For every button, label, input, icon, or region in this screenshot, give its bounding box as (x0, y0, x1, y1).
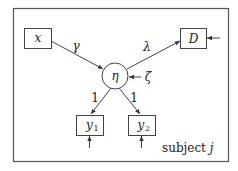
node-x-label: x (35, 31, 42, 45)
node-y2-label: y (137, 118, 145, 132)
node-y1-subscript: 1 (94, 124, 99, 133)
edge-label-gamma: γ (72, 39, 80, 53)
node-y1-label: y (85, 118, 93, 132)
frame-label: subject j (162, 141, 214, 155)
node-d-label: D (188, 32, 199, 46)
node-d: D (181, 29, 207, 49)
frame-label-text: subject (162, 141, 210, 155)
node-y2: y 2 (129, 116, 156, 136)
node-y2-subscript: 2 (145, 124, 150, 133)
edge-label-eta-y1: 1 (91, 91, 99, 105)
node-x: x (25, 29, 52, 49)
edge-label-eta-y2: 1 (130, 91, 138, 105)
node-y1: y 1 (77, 116, 104, 136)
node-eta: η (102, 63, 128, 89)
edge-label-lambda: λ (142, 40, 151, 54)
path-diagram: x D η y 1 y 2 γ λ 1 1 ζ subject j (0, 0, 238, 171)
node-eta-label: η (111, 69, 119, 83)
